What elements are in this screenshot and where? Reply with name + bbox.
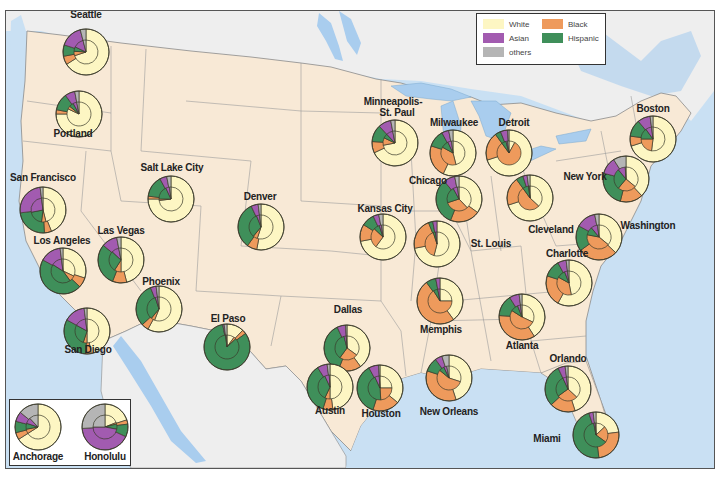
city-label: New York xyxy=(563,172,606,182)
legend-label: Asian xyxy=(509,34,529,43)
city-label: San Diego xyxy=(64,345,111,355)
city-label: Memphis xyxy=(420,325,462,335)
pie-los-angeles xyxy=(38,246,88,296)
pie-new-orleans xyxy=(424,353,474,403)
city-label: Salt Lake City xyxy=(141,163,204,173)
city-label: Minneapolis- xyxy=(364,97,423,107)
pie-milwaukee xyxy=(428,128,478,178)
pie-kansas-city xyxy=(358,212,408,262)
city-label: Los Angeles xyxy=(34,236,91,246)
pie-orlando xyxy=(543,364,593,414)
city-label: Miami xyxy=(533,434,560,444)
pie-honolulu xyxy=(80,402,130,452)
city-label: Atlanta xyxy=(506,341,539,351)
legend: White Asian others Black Hispanic xyxy=(476,13,606,65)
city-label: El Paso xyxy=(211,314,246,324)
city-label: Chicago xyxy=(409,176,447,186)
black-swatch xyxy=(542,19,563,29)
city-label: St. Louis xyxy=(471,239,511,249)
pie-salt-lake-city xyxy=(146,174,196,224)
legend-item-asian: Asian xyxy=(483,33,529,43)
city-label: Boston xyxy=(636,104,669,114)
city-label: San Francisco xyxy=(10,173,76,183)
city-label: Kansas City xyxy=(357,204,412,214)
city-label: Charlotte xyxy=(546,249,588,259)
legend-item-others: others xyxy=(483,47,531,57)
pie-san-francisco xyxy=(18,185,68,235)
city-label: Honolulu xyxy=(84,452,126,462)
pie-charlotte xyxy=(544,258,594,308)
legend-label: Hispanic xyxy=(568,34,599,43)
pie-denver xyxy=(236,202,286,252)
pie-el-paso xyxy=(202,322,252,372)
city-label: Austin xyxy=(315,406,345,416)
pie-las-vegas xyxy=(96,235,146,285)
asian-swatch xyxy=(483,33,504,43)
city-label: Detroit xyxy=(499,118,530,128)
city-label: Anchorage xyxy=(13,452,63,462)
city-label: Dallas xyxy=(334,305,362,315)
legend-item-white: White xyxy=(483,19,529,29)
alaska-hawaii-inset: AnchorageHonolulu xyxy=(9,399,131,466)
city-label: New Orleans xyxy=(420,407,478,417)
city-label: Denver xyxy=(244,192,277,202)
pie-detroit xyxy=(484,128,534,178)
others-swatch xyxy=(483,47,504,57)
city-label: Seattle xyxy=(70,10,101,20)
pie-atlanta xyxy=(497,292,547,342)
pie-anchorage xyxy=(13,402,63,452)
legend-label: White xyxy=(509,20,529,29)
legend-label: others xyxy=(509,48,531,57)
city-label: Milwaukee xyxy=(430,118,478,128)
pie-phoenix xyxy=(134,284,184,334)
pie-st-louis xyxy=(412,219,462,269)
pie-houston xyxy=(355,363,405,413)
pie-new-york xyxy=(601,154,651,204)
city-label: Portland xyxy=(54,129,93,139)
legend-label: Black xyxy=(568,20,588,29)
pie-cleveland xyxy=(505,173,555,223)
white-swatch xyxy=(483,19,504,29)
city-label: Phoenix xyxy=(142,277,180,287)
city-label: Cleveland xyxy=(528,225,573,235)
legend-item-black: Black xyxy=(542,19,588,29)
city-label: Washington xyxy=(621,221,676,231)
pie-memphis xyxy=(415,276,465,326)
hispanic-swatch xyxy=(542,33,563,43)
city-label: St. Paul xyxy=(379,108,414,118)
pie-minneapolis-st-paul xyxy=(370,118,420,168)
pie-miami xyxy=(571,410,621,460)
city-label: Houston xyxy=(361,409,400,419)
legend-item-hispanic: Hispanic xyxy=(542,33,599,43)
city-label: Orlando xyxy=(550,354,587,364)
pie-seattle xyxy=(61,27,111,77)
city-label: Las Vegas xyxy=(97,226,144,236)
